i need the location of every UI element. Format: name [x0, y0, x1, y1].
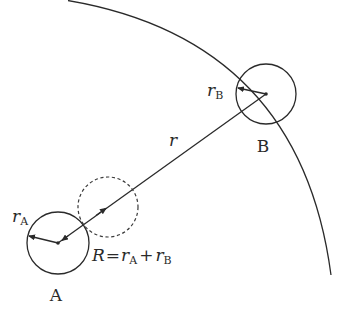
separation-sphere-arc — [68, 1, 331, 276]
collision-radius-equation: R=rA+rB — [91, 245, 172, 267]
particle-b-label: B — [257, 136, 270, 156]
radius-a-arrow — [29, 236, 58, 243]
particle-a-label: A — [49, 285, 63, 305]
radius-b-arrow — [238, 88, 266, 94]
center-to-center-line — [58, 94, 266, 243]
line-arrow-mid — [96, 208, 106, 215]
radius-a-label: rA — [12, 206, 29, 228]
collision-diagram: rA rB r A B R=rA+rB — [0, 0, 337, 311]
separation-label: r — [169, 130, 178, 150]
radius-b-label: rB — [207, 80, 223, 102]
line-arrow-near-a — [62, 236, 68, 241]
